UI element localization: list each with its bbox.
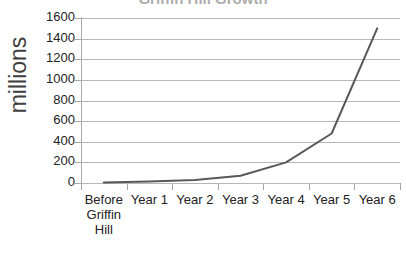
data-series-line [81,18,400,183]
x-category-label: Year 4 [263,192,309,207]
y-tick-label: 400 [27,134,75,147]
y-tick-label: 600 [27,113,75,126]
series-polyline [104,28,377,182]
y-tick-label: 1200 [27,51,75,64]
x-axis-category-labels: Before Griffin HillYear 1Year 2Year 3Yea… [81,192,401,252]
gridline [81,183,400,184]
chart-title-text: Griffin Hill Growth [138,0,267,7]
y-tick-mark [75,121,81,122]
y-axis-tick-labels: 02004006008001000120014001600 [27,8,75,188]
x-tick-mark [172,184,173,190]
y-tick-label: 0 [27,175,75,188]
x-tick-mark [263,184,264,190]
x-category-label: Year 2 [172,192,218,207]
x-tick-mark [81,184,82,190]
plot-area [81,18,400,183]
y-tick-label: 800 [27,93,75,106]
x-tick-mark [354,184,355,190]
y-tick-mark [75,39,81,40]
x-category-label: Year 3 [218,192,264,207]
y-tick-mark [75,18,81,19]
y-tick-label: 200 [27,154,75,167]
x-category-label: Before Griffin Hill [81,192,127,237]
x-category-label: Year 6 [354,192,400,207]
x-category-label: Year 5 [309,192,355,207]
chart-title-cropped: Griffin Hill Growth [0,0,406,8]
line-chart: Griffin Hill Growth millions 02004006008… [0,0,406,254]
y-tick-label: 1000 [27,72,75,85]
y-tick-label: 1400 [27,31,75,44]
y-tick-label: 1600 [27,10,75,23]
x-tick-mark [127,184,128,190]
x-tick-mark [400,184,401,190]
y-tick-mark [75,101,81,102]
x-tick-mark [218,184,219,190]
y-tick-mark [75,80,81,81]
x-category-label: Year 1 [127,192,173,207]
y-tick-mark [75,59,81,60]
y-tick-mark [75,162,81,163]
y-tick-mark [75,142,81,143]
x-tick-mark [309,184,310,190]
